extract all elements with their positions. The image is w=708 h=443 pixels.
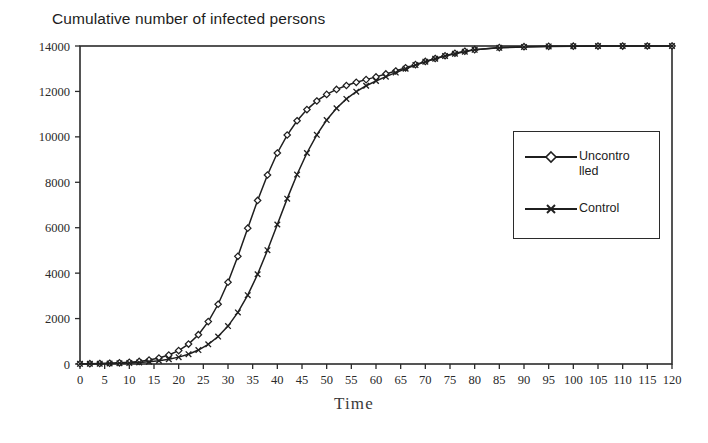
x-axis-tick-label: 60 xyxy=(370,373,383,387)
y-axis-tick-label: 10000 xyxy=(39,130,70,144)
x-axis-tick-label: 120 xyxy=(663,373,682,387)
x-axis-tick-label: 65 xyxy=(394,373,407,387)
legend-item-control: Control xyxy=(514,201,661,217)
x-axis-tick-label: 115 xyxy=(638,373,656,387)
x-axis-tick-label: 20 xyxy=(172,373,185,387)
chart-figure: Cumulative number of infected persons 02… xyxy=(0,0,708,443)
x-axis-tick-label: 85 xyxy=(493,373,506,387)
x-axis-tick-label: 95 xyxy=(542,373,555,387)
x-axis-tick-group: 0510152025303540455055606570758085909510… xyxy=(77,364,682,387)
legend-item-uncontrolled: Uncontrolled xyxy=(514,149,661,179)
legend-label-line-1: Uncontro xyxy=(579,149,630,163)
x-axis-tick-label: 15 xyxy=(148,373,161,387)
x-axis-tick-label: 70 xyxy=(419,373,432,387)
y-axis-tick-label: 4000 xyxy=(45,267,70,281)
y-axis-tick-label: 8000 xyxy=(45,176,70,190)
y-axis-tick-label: 12000 xyxy=(39,85,70,99)
x-axis-tick-label: 10 xyxy=(123,373,136,387)
chart-legend: Uncontrolled Control xyxy=(513,131,660,239)
legend-label-line-1: Control xyxy=(579,201,619,215)
y-axis-tick-label: 2000 xyxy=(45,312,70,326)
legend-label-line-2: lled xyxy=(579,164,598,178)
x-axis-tick-label: 30 xyxy=(222,373,235,387)
x-axis-tick-label: 45 xyxy=(296,373,309,387)
x-axis-tick-label: 90 xyxy=(518,373,531,387)
x-axis-tick-label: 0 xyxy=(77,373,83,387)
x-axis-tick-label: 55 xyxy=(345,373,358,387)
y-axis-tick-label: 14000 xyxy=(39,40,70,54)
x-axis-tick-label: 35 xyxy=(246,373,259,387)
legend-marker-diamond-icon xyxy=(523,149,579,165)
legend-label-control: Control xyxy=(579,201,653,216)
x-axis-tick-label: 100 xyxy=(564,373,583,387)
legend-marker-x-icon xyxy=(523,201,579,217)
y-axis-tick-label: 6000 xyxy=(45,221,70,235)
x-axis-tick-label: 40 xyxy=(271,373,284,387)
x-axis-tick-label: 25 xyxy=(197,373,210,387)
y-axis-tick-label: 0 xyxy=(64,358,70,372)
x-axis-tick-label: 50 xyxy=(320,373,333,387)
x-axis-tick-label: 5 xyxy=(102,373,108,387)
y-axis-tick-group: 02000400060008000100001200014000 xyxy=(39,40,80,372)
x-axis-title: Time xyxy=(0,394,708,414)
x-axis-tick-label: 110 xyxy=(614,373,632,387)
x-axis-tick-label: 75 xyxy=(444,373,457,387)
legend-label-uncontrolled: Uncontrolled xyxy=(579,149,653,179)
x-axis-tick-label: 105 xyxy=(589,373,608,387)
x-axis-tick-label: 80 xyxy=(468,373,481,387)
